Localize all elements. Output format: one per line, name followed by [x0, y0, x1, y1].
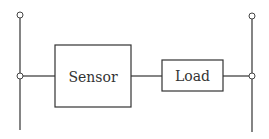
- right-junction-terminal-icon: [249, 73, 255, 79]
- right-rail: [249, 13, 255, 132]
- right-top-terminal-icon: [249, 13, 255, 19]
- circuit-diagram: Sensor Load: [0, 0, 269, 139]
- load-block: Load: [162, 60, 223, 91]
- sensor-block: Sensor: [55, 45, 131, 107]
- left-top-terminal-icon: [17, 12, 23, 18]
- load-label: Load: [175, 68, 210, 84]
- left-rail: [17, 12, 23, 130]
- sensor-label: Sensor: [68, 69, 118, 85]
- left-junction-terminal-icon: [17, 73, 23, 79]
